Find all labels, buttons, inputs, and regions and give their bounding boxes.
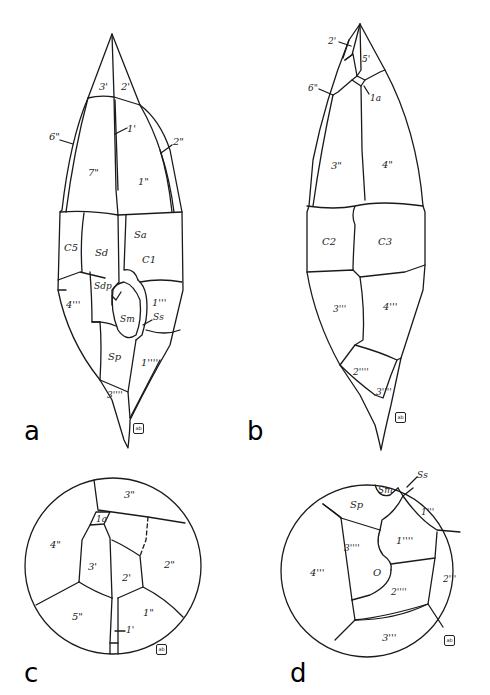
plate-label-4-triple-prime: 4''' <box>310 568 325 578</box>
plate-label-2-double-prime: 2" <box>173 137 184 147</box>
author-signature: ab <box>395 412 406 423</box>
plate-label-2-triple-prime: 2''' <box>443 575 456 584</box>
plate-label-1-prime: 1' <box>127 124 136 134</box>
plate-label-Sp: Sp <box>350 500 363 510</box>
plate-label-3-prime: 3' <box>99 82 108 92</box>
author-signature: ab <box>156 644 167 655</box>
plate-label-1-double-prime: 1" <box>143 608 154 618</box>
plate-label-2-double-prime: 2" <box>164 560 175 570</box>
plate-label-6-double-prime: 6" <box>49 132 60 142</box>
plate-label-C3: C3 <box>378 237 392 247</box>
plate-label-3-triple-prime: 3''' <box>333 305 346 314</box>
plate-label-Sp: Sp <box>108 352 121 362</box>
plate-label-Ss: Ss <box>153 313 164 322</box>
plate-label-5-double-prime: 5" <box>72 612 83 622</box>
plate-label-4-double-prime: 4" <box>50 540 61 550</box>
plate-label-Ss: Ss <box>417 471 428 480</box>
panel-letter-b: b <box>247 418 264 444</box>
plate-label-3-double-prime: 3" <box>331 161 342 171</box>
plate-label-2-prime: 2' <box>122 573 131 583</box>
plate-label-3-double-prime: 3" <box>124 490 135 500</box>
plate-label-Sm: Sm <box>378 486 393 495</box>
plate-label-2-quadruple-prime: 2'''' <box>391 588 407 597</box>
plate-label-3-triple-prime: 3''' <box>382 633 397 643</box>
plate-label-Sd: Sd <box>95 248 108 258</box>
plate-label-1-triple-prime: 1''' <box>152 298 167 308</box>
plate-label-Sa: Sa <box>134 230 147 240</box>
plate-label-1a: 1a <box>370 94 381 103</box>
plate-label-5-prime: 5' <box>362 55 370 64</box>
plate-label-2-quadruple-prime: 2'''' <box>353 368 369 377</box>
plate-label-1a: 1a <box>96 515 107 524</box>
plate-label-C2: C2 <box>322 237 336 247</box>
panel-letter-c: c <box>24 660 38 686</box>
plate-label-4-triple-prime: 4''' <box>66 300 81 310</box>
plate-label-4-double-prime: 4" <box>382 160 393 170</box>
plate-label-C1: C1 <box>142 255 156 265</box>
panel-b: 2' 5' 6" 1a 3" 4" C2 C3 3''' 4''' 2'''' … <box>245 0 490 460</box>
panel-letter-d: d <box>290 660 307 686</box>
plate-label-Sm: Sm <box>120 315 135 324</box>
plate-label-6-double-prime: 6" <box>308 84 318 93</box>
panel-a: 3' 2' 1' 6" 7" 1" 2" C5 Sd Sa C1 4''' Sd… <box>0 0 245 460</box>
plate-label-1-prime: 1' <box>126 626 134 635</box>
panel-c: 3" 1a 4" 3' 2' 2" 5" 1" 1' ab c <box>0 460 245 695</box>
plate-label-1-quadruple-prime: 1'''' <box>141 358 158 368</box>
plate-label-1-triple-prime: 1''' <box>421 508 434 517</box>
plate-label-1-quadruple-prime: 1'''' <box>396 536 413 546</box>
plate-label-1-double-prime: 1" <box>138 177 149 187</box>
author-signature: ab <box>444 635 455 646</box>
plate-label-O: O <box>373 568 381 578</box>
plate-label-3-quadruple-prime: 3'''' <box>344 544 360 553</box>
plate-label-4-triple-prime: 4''' <box>383 302 398 312</box>
plate-label-Sdp: Sdp <box>94 282 112 291</box>
plate-label-2-prime: 2' <box>121 82 130 92</box>
plate-label-3-prime: 3' <box>88 562 97 572</box>
plate-label-C5: C5 <box>64 243 78 253</box>
panel-b-drawing <box>245 0 490 460</box>
panel-letter-a: a <box>24 418 40 444</box>
plate-label-7-double-prime: 7" <box>88 168 99 178</box>
author-signature: ab <box>133 423 144 434</box>
plate-label-3-quadruple-prime: 3'''' <box>107 391 123 400</box>
plate-label-3-quadruple-prime: 3'''' <box>376 388 392 397</box>
panel-d: Sm Ss Sp 1''' 1'''' 3'''' 4''' O 2'''' 2… <box>245 460 490 695</box>
plate-label-2-prime: 2' <box>328 37 336 46</box>
